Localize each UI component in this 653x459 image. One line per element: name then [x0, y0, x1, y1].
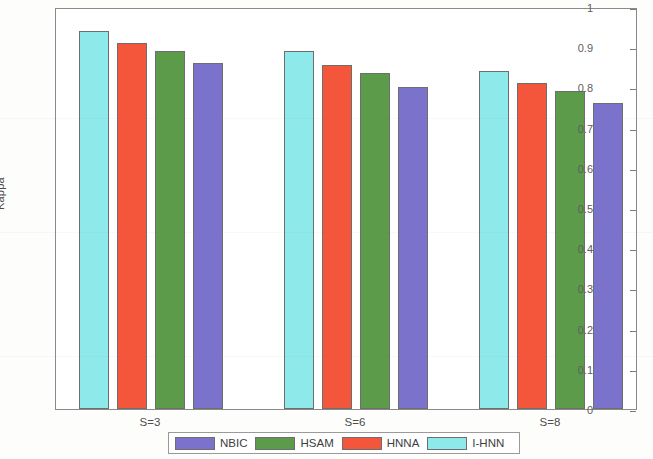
y-axis-tick-label: 0.5: [578, 204, 593, 215]
bar-hnna-S3: [117, 43, 147, 409]
x-axis-group-label: S=6: [345, 416, 366, 428]
bar-hsam-S6: [360, 73, 390, 409]
y-axis-tick: [630, 9, 636, 10]
y-axis-tick: [630, 130, 636, 131]
y-axis-tick: [630, 210, 636, 211]
chart-legend: NBICHSAMHNNAI-HNN: [168, 432, 520, 454]
legend-label: HSAM: [300, 437, 333, 449]
legend-entry-i-hnn: I-HNN: [427, 437, 504, 450]
y-axis-tick-label: 1: [587, 3, 593, 14]
bar-hsam-S3: [155, 51, 185, 409]
y-axis-tick-label: 0.2: [578, 324, 593, 335]
bar-hnna-S8: [517, 83, 547, 409]
bar-i-hnn-S3: [79, 31, 109, 409]
y-axis-tick-label: 0.7: [578, 123, 593, 134]
legend-entry-nbic: NBIC: [175, 437, 247, 450]
y-axis-tick-label: 0.8: [578, 83, 593, 94]
legend-swatch: [175, 437, 215, 450]
y-axis-title: Kappa: [0, 177, 6, 210]
y-axis-tick: [630, 411, 636, 412]
y-axis-tick: [630, 89, 636, 90]
legend-entry-hsam: HSAM: [255, 437, 333, 450]
legend-label: I-HNN: [472, 437, 504, 449]
y-axis-tick: [630, 331, 636, 332]
plot-area: [55, 8, 637, 410]
chart-page: Kappa 00.10.20.30.40.50.60.70.80.91 S=3S…: [0, 0, 653, 459]
legend-swatch: [255, 437, 295, 450]
y-axis-tick-label: 0.6: [578, 163, 593, 174]
y-axis-tick: [630, 170, 636, 171]
legend-label: HNNA: [387, 437, 420, 449]
y-axis-tick-label: 0.4: [578, 244, 593, 255]
legend-swatch: [427, 437, 467, 450]
y-axis-tick-label: 0.1: [578, 364, 593, 375]
bar-nbic-S6: [398, 87, 428, 409]
y-axis-tick: [630, 290, 636, 291]
x-axis-group-label: S=3: [140, 416, 161, 428]
y-axis-tick: [630, 371, 636, 372]
y-axis-tick-label: 0: [587, 405, 593, 416]
x-axis-group-label: S=8: [540, 416, 561, 428]
bar-nbic-S3: [193, 63, 223, 409]
bar-i-hnn-S6: [284, 51, 314, 409]
legend-label: NBIC: [220, 437, 247, 449]
y-axis-tick-label: 0.9: [578, 43, 593, 54]
bar-nbic-S8: [593, 103, 623, 409]
legend-entry-hnna: HNNA: [342, 437, 420, 450]
y-axis-tick-label: 0.3: [578, 284, 593, 295]
y-axis-tick: [630, 49, 636, 50]
y-axis-tick: [630, 250, 636, 251]
bar-i-hnn-S8: [479, 71, 509, 409]
legend-swatch: [342, 437, 382, 450]
bar-hnna-S6: [322, 65, 352, 409]
